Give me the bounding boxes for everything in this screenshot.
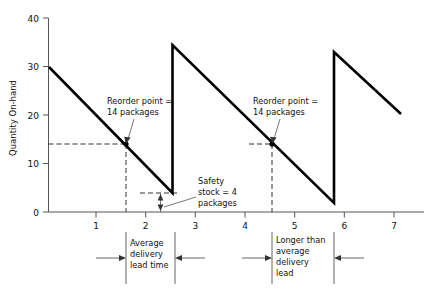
safety-stock-annotation-line3: packages [198,198,237,208]
bracket-right-label-line2: average [276,246,310,256]
inventory-sawtooth-chart: 40 30 20 10 0 Quantity On-hand 1 2 3 4 5… [0,0,434,289]
x-tick-label-1: 1 [93,221,99,231]
reorder-annotation-1-leader [128,119,134,139]
safety-stock-arrow-down [158,205,164,212]
bracket-left-arrowhead-left [175,255,182,261]
safety-stock-annotation-line1: Safety [198,176,224,186]
bracket-right-label-line1: Longer than [276,235,325,245]
y-tick-label-0: 0 [33,208,39,218]
y-tick-label-10: 10 [28,159,40,169]
bracket-right-label-line3: delivery [276,257,309,267]
y-tick-label-40: 40 [28,14,40,24]
x-tick-label-2: 2 [143,221,149,231]
x-tick-label-6: 6 [341,221,347,231]
safety-stock-arrow-up [158,194,164,201]
x-tick-label-4: 4 [242,221,248,231]
safety-stock-leader [164,197,196,207]
x-tick-label-3: 3 [192,221,198,231]
bracket-right-arrowhead-right [265,255,272,261]
bracket-right-arrowhead-left [334,255,341,261]
bracket-left-label-line1: Average [130,238,164,248]
x-tick-label-5: 5 [292,221,298,231]
bracket-left-label-line2: delivery [130,249,163,259]
bracket-left-label-line3: lead time [130,260,169,270]
y-axis-title: Quantity On-hand [8,80,18,156]
x-tick-label-7: 7 [391,221,397,231]
safety-stock-annotation-line2: stock = 4 [198,187,237,197]
inventory-level-series [49,45,401,203]
reorder-annotation-2-line1: Reorder point = [253,96,318,106]
bracket-right-label-line4: lead [276,268,294,278]
y-tick-label-30: 30 [28,62,40,72]
reorder-annotation-2-leader [274,119,280,139]
reorder-annotation-2-line2: 14 packages [253,107,305,117]
chart-canvas: 40 30 20 10 0 Quantity On-hand 1 2 3 4 5… [0,0,434,289]
reorder-annotation-1-line2: 14 packages [107,107,159,117]
reorder-annotation-1-line1: Reorder point = [107,96,172,106]
y-tick-label-20: 20 [28,111,40,121]
bracket-left-arrowhead-right [119,255,126,261]
